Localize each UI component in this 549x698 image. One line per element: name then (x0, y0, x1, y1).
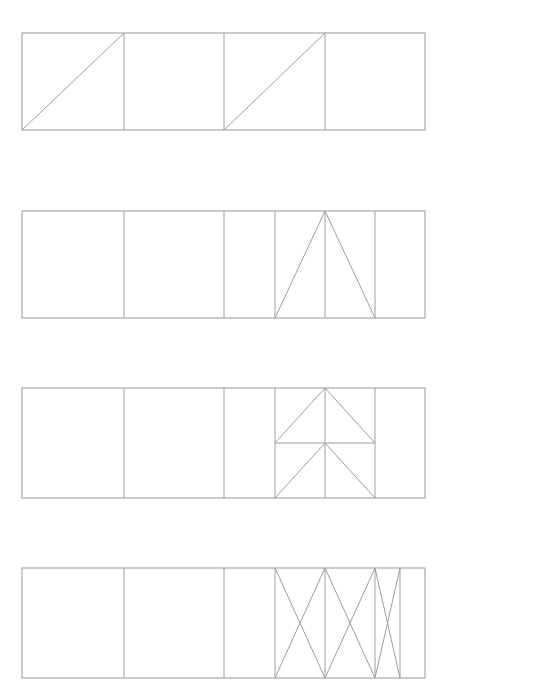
row-apex-triangle (22, 211, 425, 318)
row-arrow-stack-upper-triangle-right-leg (325, 388, 375, 443)
row-apex-triangle-triangle-left-leg (275, 211, 325, 318)
figure-root (0, 0, 549, 698)
row-apex-triangle-triangle-right-leg (325, 211, 375, 318)
row-arrow-stack (22, 388, 425, 498)
figure-canvas (0, 0, 549, 698)
row-diagonals-diagonal-cell-3 (224, 33, 325, 130)
row-arrow-stack-lower-chevron-left-leg (275, 443, 325, 498)
row-diagonals (22, 33, 425, 130)
row-diagonals-diagonal-cell-1 (22, 33, 124, 130)
row-arrow-stack-lower-chevron-right-leg (325, 443, 375, 498)
rows-group (22, 33, 425, 678)
row-arrow-stack-upper-triangle-left-leg (275, 388, 325, 443)
row-crossed-cells (22, 568, 425, 678)
